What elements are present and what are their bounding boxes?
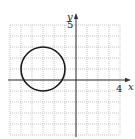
x-tick-label: 4 [116, 83, 122, 94]
y-tick-label: 5 [67, 19, 73, 30]
coordinate-plane: x y 4 5 [0, 0, 135, 139]
x-axis-label: x [128, 81, 134, 92]
y-axis-arrow-icon [74, 13, 78, 19]
